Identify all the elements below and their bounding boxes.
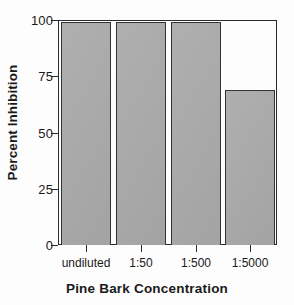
- y-tick-label-25: 25: [38, 181, 53, 196]
- x-tick-mark-0: [86, 245, 87, 252]
- y-tick-label-50: 50: [38, 125, 53, 140]
- y-tick-label-100: 100: [31, 13, 53, 28]
- y-axis-title-text: Percent Inhibition: [6, 65, 21, 181]
- bar-1-500: [171, 22, 221, 245]
- x-tick-label-1-50: 1:50: [129, 256, 152, 270]
- y-axis-title: Percent Inhibition: [2, 0, 24, 245]
- x-tick-label-1-5000: 1:5000: [232, 256, 269, 270]
- y-tick-label-75: 75: [38, 69, 53, 84]
- bar-chart-figure: Percent Inhibition 0 25 50 75 100: [0, 0, 294, 305]
- bar-undiluted: [61, 22, 111, 245]
- plot-area: 0 25 50 75 100 undiluted 1:50 1:5: [58, 20, 277, 245]
- x-tick-mark-1: [141, 245, 142, 252]
- x-tick-label-undiluted: undiluted: [62, 256, 111, 270]
- bar-1-50: [116, 22, 166, 245]
- x-tick-mark-2: [196, 245, 197, 252]
- x-tick-mark-3: [250, 245, 251, 252]
- x-axis-title: Pine Bark Concentration: [0, 281, 294, 296]
- y-tick-label-0: 0: [46, 238, 53, 253]
- x-tick-label-1-500: 1:500: [181, 256, 211, 270]
- bar-1-5000: [225, 90, 275, 245]
